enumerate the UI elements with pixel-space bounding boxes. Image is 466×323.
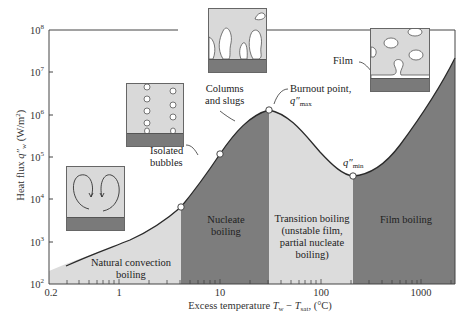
x-axis-label: Excess temperature Tw − Tsat, (°C)	[130, 300, 390, 313]
x-tick-100: 100	[301, 287, 341, 298]
vapor-columns-icon	[209, 9, 267, 61]
inset-isolated-bubbles	[126, 83, 184, 147]
annotation-qmin: q″min	[343, 157, 364, 172]
inset-columns-slugs	[208, 8, 267, 73]
heater-surface	[209, 59, 266, 72]
annotation-isolated-bubbles: Isolatedbubbles	[150, 145, 183, 169]
x-tick-10: 10	[200, 287, 240, 298]
y-axis-label: Heat flux q″w (W/m2)	[14, 90, 29, 220]
inset-film	[370, 28, 430, 92]
region-label-natural-convection: Natural convectionboiling	[86, 257, 176, 281]
x-tick-1000: 1000	[401, 287, 441, 298]
annotation-columns-slugs: Columnsand slugs	[205, 83, 244, 107]
region-label-nucleate: Nucleateboiling	[196, 214, 256, 238]
annotation-burnout-point: Burnout point, q″max	[290, 83, 351, 110]
point-onset-nucleate	[178, 204, 184, 210]
leader-columns-slugs	[220, 111, 235, 121]
region-label-film: Film boiling	[370, 214, 442, 226]
region-label-transition: Transition boiling(unstable film,partial…	[266, 213, 358, 261]
bubbles-icon	[127, 84, 184, 134]
annotation-film: Film	[333, 55, 353, 67]
y-tick-1e8: 108	[14, 23, 44, 36]
x-tick-0.2: 0.2	[31, 287, 71, 298]
point-isolated-bubbles	[217, 151, 223, 157]
inset-natural-convection	[66, 166, 125, 231]
heater-surface	[371, 78, 429, 91]
heater-surface	[67, 217, 124, 230]
convection-arrows-icon	[67, 167, 125, 219]
region-nucleate	[181, 110, 269, 284]
point-qmin	[350, 173, 356, 179]
leader-isolated-bubbles	[186, 145, 198, 155]
point-burnout	[266, 107, 272, 113]
vapor-film-icon	[371, 29, 430, 81]
leader-burnout	[274, 89, 288, 104]
y-tick-1e3: 103	[14, 235, 44, 248]
y-tick-1e7: 107	[14, 65, 44, 78]
x-tick-1: 1	[99, 287, 139, 298]
